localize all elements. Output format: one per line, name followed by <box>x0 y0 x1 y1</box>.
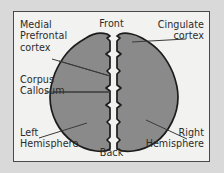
label-back: Back <box>14 147 209 158</box>
label-corpus-callosum-line2: Callosum <box>20 85 65 96</box>
label-cingulate-cortex-line2: cortex <box>158 30 204 41</box>
figure-frame: Medial Prefrontal cortex Cingulate corte… <box>13 11 210 162</box>
figure-root: Medial Prefrontal cortex Cingulate corte… <box>0 0 224 173</box>
label-medial-prefrontal-cortex-line3: cortex <box>20 42 67 53</box>
label-corpus-callosum-line1: Corpus <box>20 74 65 85</box>
label-right-hemisphere-line1: Right <box>146 127 204 138</box>
label-corpus-callosum: Corpus Callosum <box>20 74 65 97</box>
label-front: Front <box>14 18 209 29</box>
label-left-hemisphere-line1: Left <box>20 127 78 138</box>
label-medial-prefrontal-cortex-line2: Prefrontal <box>20 30 67 41</box>
